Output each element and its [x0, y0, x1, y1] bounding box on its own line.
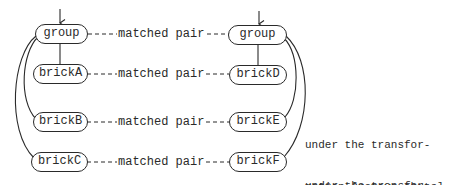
right-bricke-node: brickE [229, 112, 287, 132]
pair-label-2: matched pair [117, 115, 205, 129]
left-brickc-node: brickC [31, 152, 88, 172]
note-bricke-line1: under the transfor- [305, 138, 444, 152]
left-group-node: group [35, 24, 88, 44]
left-bricka-node: brickA [33, 64, 88, 84]
pair-label-3: matched pair [117, 155, 205, 169]
right-group-node: group [228, 25, 287, 45]
matched-pair-diagram: group brickA brickB brickC group brickD … [0, 0, 459, 185]
left-brickb-node: brickB [33, 112, 88, 132]
note-brickf: under the transfor- mation [remove abuts… [305, 151, 444, 185]
right-brickd-node: brickD [229, 65, 287, 85]
note-brickf-line1: under the transfor- [305, 179, 444, 185]
pair-label-0: matched pair [117, 27, 205, 41]
right-brickf-node: brickF [229, 152, 287, 172]
pair-label-1: matched pair [117, 67, 205, 81]
